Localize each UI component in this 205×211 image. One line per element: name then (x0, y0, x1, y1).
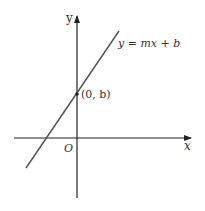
origin-label: O (64, 142, 73, 155)
point-label: (0, b) (81, 88, 111, 101)
y-axis-label: y (65, 11, 73, 25)
x-axis-label: x (184, 139, 191, 153)
coordinate-diagram: y x O (0, b) y = mx + b (0, 0, 205, 211)
equation-label: y = mx + b (117, 37, 180, 50)
y-intercept-point (75, 92, 79, 96)
